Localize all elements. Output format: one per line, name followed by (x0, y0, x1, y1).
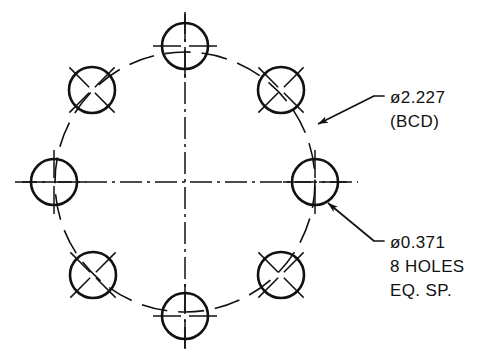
hole-270-deg (153, 284, 217, 348)
hole-45-deg (258, 67, 304, 113)
hole-size-note-line-2: 8 HOLES (390, 257, 465, 276)
annotation-labels-group: ø2.227(BCD)ø0.3718 HOLESEQ. SP. (390, 88, 465, 300)
hole-135-deg (69, 67, 115, 113)
bcd-dimension-note-leader (318, 96, 384, 124)
hole-90-deg (153, 14, 217, 78)
drawing-svg: ø2.227(BCD)ø0.3718 HOLESEQ. SP. (0, 0, 484, 359)
hole-size-note-leader-line (328, 203, 374, 241)
hole-225-deg (70, 252, 116, 298)
bcd-dimension-note-leader-line (318, 96, 374, 124)
engineering-drawing-canvas: ø2.227(BCD)ø0.3718 HOLESEQ. SP. (0, 0, 484, 359)
hole-size-note-line-1: ø0.371 (390, 233, 445, 252)
hole-size-note-line-3: EQ. SP. (390, 281, 452, 300)
centerlines-group (15, 12, 358, 350)
bcd-dimension-note-line-1: ø2.227 (390, 88, 445, 107)
hole-315-deg (258, 252, 304, 298)
leader-lines-group (318, 96, 384, 241)
hole-size-note-leader (328, 203, 384, 241)
bcd-dimension-note-line-2: (BCD) (390, 112, 439, 131)
